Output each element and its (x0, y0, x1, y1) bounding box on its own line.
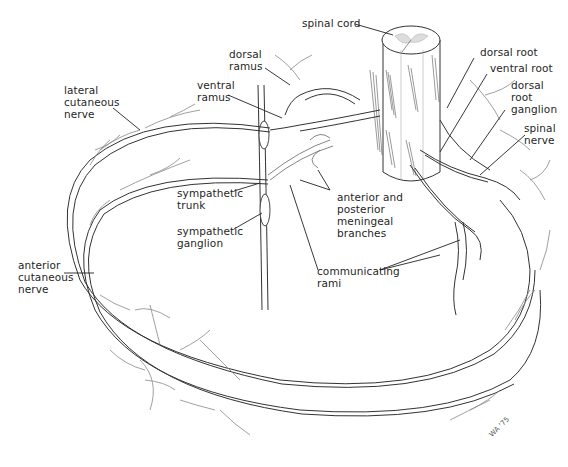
label-dorsal-root-ganglion: dorsal root ganglion (511, 79, 557, 115)
label-lateral-cutaneous-nerve: lateral cutaneous nerve (64, 84, 120, 120)
intercostal-nerves (67, 123, 540, 416)
label-communicating-rami: communicating rami (317, 265, 400, 289)
label-meningeal-branches: anterior and posterior meningeal branche… (337, 191, 403, 239)
label-sympathetic-ganglion: sympathetic ganglion (177, 225, 243, 249)
label-dorsal-root: dorsal root (480, 46, 538, 58)
label-anterior-cutaneous-nerve: anterior cutaneous nerve (18, 259, 74, 295)
nerve-roots (410, 120, 520, 260)
label-spinal-nerve: spinal nerve (524, 122, 556, 146)
label-sympathetic-trunk: sympathetic trunk (177, 187, 243, 211)
leader-lines (64, 24, 525, 273)
rami-illustration (268, 89, 380, 180)
label-ventral-root: ventral root (490, 62, 553, 74)
label-spinal-cord: spinal cord (302, 17, 361, 29)
label-dorsal-ramus: dorsal ramus (229, 48, 263, 72)
nerve-diagram (0, 0, 568, 467)
label-ventral-ramus: ventral ramus (197, 79, 235, 103)
